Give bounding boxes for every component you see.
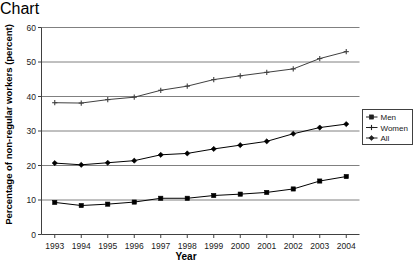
marker-square	[53, 200, 57, 204]
data-point-diamond	[52, 160, 57, 165]
marker-square	[212, 193, 216, 197]
data-point-square	[344, 174, 348, 178]
data-point-square	[265, 190, 269, 194]
marker-diamond	[105, 160, 110, 165]
y-axis-tick-label: 60	[27, 23, 37, 33]
data-point-cross	[185, 84, 190, 89]
y-axis-tick-label: 20	[27, 161, 37, 171]
data-point-diamond	[344, 122, 349, 127]
data-point-square	[159, 196, 163, 200]
x-axis-tick-label: 1997	[151, 241, 170, 251]
data-point-square	[53, 200, 57, 204]
marker-diamond	[291, 131, 296, 136]
x-axis-tick-label: 2004	[337, 241, 356, 251]
data-point-cross	[79, 100, 84, 105]
x-axis-tick-label: 2000	[231, 241, 250, 251]
data-point-cross	[158, 88, 163, 93]
data-point-cross	[211, 77, 216, 82]
x-axis-title-wrapper: Year	[0, 251, 416, 262]
series-men	[53, 174, 349, 207]
x-axis-tick-label: 1999	[204, 241, 223, 251]
data-point-diamond	[132, 158, 137, 163]
data-point-square	[318, 179, 322, 183]
marker-square	[291, 187, 295, 191]
data-point-square	[106, 202, 110, 206]
x-axis-title: Year	[175, 251, 196, 262]
marker-square	[185, 196, 189, 200]
x-axis-tick-label: 1998	[178, 241, 197, 251]
data-point-diamond	[185, 151, 190, 156]
data-point-square	[212, 193, 216, 197]
series-line	[55, 52, 347, 103]
data-point-square	[185, 196, 189, 200]
series-line	[55, 177, 347, 206]
data-point-diamond	[264, 139, 269, 144]
marker-square	[238, 192, 242, 196]
data-point-cross	[264, 70, 269, 75]
data-point-square	[238, 192, 242, 196]
marker-diamond	[264, 139, 269, 144]
series-women	[52, 49, 349, 106]
x-axis-tick-label: 2002	[284, 241, 303, 251]
x-axis-tick-label: 1994	[72, 241, 91, 251]
marker-square	[106, 202, 110, 206]
marker-square	[318, 179, 322, 183]
x-axis-tick-label: 2001	[257, 241, 276, 251]
legend-item-label[interactable]: Men	[381, 113, 397, 122]
series-all	[52, 122, 349, 168]
chart-plot-area: 0102030405060199319941995199619971998199…	[0, 0, 416, 270]
marker-diamond	[317, 125, 322, 130]
data-point-diamond	[79, 162, 84, 167]
series-line	[55, 124, 347, 165]
data-point-square	[291, 187, 295, 191]
data-point-cross	[291, 66, 296, 71]
marker-diamond	[211, 146, 216, 151]
data-point-diamond	[105, 160, 110, 165]
marker-diamond	[344, 122, 349, 127]
marker-diamond	[132, 158, 137, 163]
marker-square	[344, 174, 348, 178]
y-axis-tick-label: 30	[27, 126, 37, 136]
marker-square	[265, 190, 269, 194]
y-axis-tick-label: 0	[31, 230, 36, 240]
data-point-diamond	[291, 131, 296, 136]
marker-square	[369, 115, 373, 119]
marker-diamond	[185, 151, 190, 156]
data-point-diamond	[317, 125, 322, 130]
data-point-diamond	[238, 143, 243, 148]
x-axis-tick-label: 1996	[125, 241, 144, 251]
x-axis-tick-label: 1993	[45, 241, 64, 251]
data-point-square	[132, 200, 136, 204]
data-point-cross	[344, 49, 349, 54]
x-axis-tick-label: 1995	[98, 241, 117, 251]
data-point-square	[79, 203, 83, 207]
y-axis-tick-label: 50	[27, 57, 37, 67]
marker-diamond	[79, 162, 84, 167]
data-point-cross	[132, 95, 137, 100]
data-point-diamond	[211, 146, 216, 151]
marker-square	[132, 200, 136, 204]
chart-legend: MenWomenAll	[363, 110, 413, 145]
data-point-cross	[52, 100, 57, 105]
marker-diamond	[238, 143, 243, 148]
data-point-square	[369, 115, 373, 119]
data-point-diamond	[158, 152, 163, 157]
marker-diamond	[158, 152, 163, 157]
y-axis-tick-label: 40	[27, 92, 37, 102]
data-point-cross	[317, 56, 322, 61]
marker-square	[79, 203, 83, 207]
marker-square	[159, 196, 163, 200]
data-point-cross	[105, 97, 110, 102]
legend-item-label[interactable]: Women	[381, 124, 408, 133]
marker-diamond	[52, 160, 57, 165]
chart-container: Percentage of non-regular workers (perce…	[0, 0, 416, 270]
legend-item-label[interactable]: All	[381, 134, 390, 143]
x-axis-tick-label: 2003	[310, 241, 329, 251]
data-point-cross	[238, 73, 243, 78]
y-axis-tick-label: 10	[27, 195, 37, 205]
